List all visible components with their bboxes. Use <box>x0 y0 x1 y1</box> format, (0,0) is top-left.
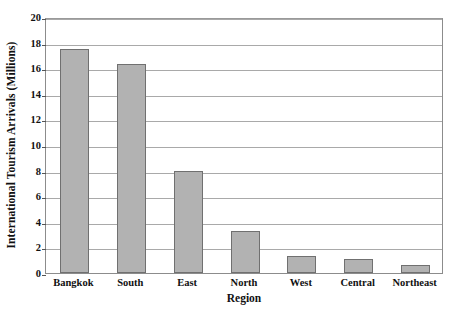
x-axis-tick-label: East <box>177 278 197 289</box>
x-axis-tick-label: Northeast <box>392 278 436 289</box>
bar <box>231 231 260 273</box>
y-axis-title: International Tourism Arrivals (Millions… <box>0 0 22 290</box>
x-axis-tick-label: Central <box>340 278 374 289</box>
y-axis-tick-label: 8 <box>36 166 41 177</box>
x-axis-tick-label: Bangkok <box>53 278 93 289</box>
x-axis-tick-label: North <box>231 278 258 289</box>
y-axis-tick-label: 16 <box>31 64 42 75</box>
plot-area <box>45 18 443 274</box>
bar <box>174 171 203 273</box>
bar <box>287 256 316 273</box>
bar <box>401 265 430 273</box>
y-axis-tick-label: 6 <box>36 192 41 203</box>
y-axis-tick-label: 12 <box>31 115 42 126</box>
bar <box>117 64 146 273</box>
y-axis-tick-label: 4 <box>36 218 41 229</box>
y-axis-tick-mark <box>42 275 46 276</box>
bar <box>60 49 89 273</box>
y-axis-title-text: International Tourism Arrivals (Millions… <box>5 42 17 249</box>
bar <box>344 259 373 273</box>
y-axis-tick-label: 18 <box>31 38 42 49</box>
y-axis-tick-label: 14 <box>31 90 42 101</box>
x-axis-tick-label: South <box>117 278 143 289</box>
y-axis-tick-labels: 02468101214161820 <box>20 18 44 274</box>
x-axis-title: Region <box>45 292 443 304</box>
y-axis-tick-label: 2 <box>36 243 41 254</box>
y-axis-tick-label: 10 <box>31 141 42 152</box>
y-axis-tick-label: 0 <box>36 269 41 280</box>
bar-chart: International Tourism Arrivals (Millions… <box>0 0 459 318</box>
bars-layer <box>46 19 442 273</box>
x-axis-tick-label: West <box>290 278 312 289</box>
y-axis-tick-label: 20 <box>31 13 42 24</box>
